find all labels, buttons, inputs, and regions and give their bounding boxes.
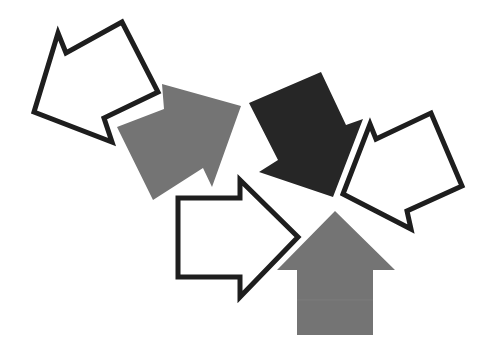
outlined-arrow-down-left-icon bbox=[343, 113, 462, 229]
arrows-illustration: Arrows converging toward a center point bbox=[0, 0, 490, 360]
arrows-graphic bbox=[0, 0, 490, 360]
gray-arrow-up-icon bbox=[277, 211, 395, 335]
outlined-arrow-right-icon bbox=[178, 180, 298, 297]
dark-arrow-down-right-icon bbox=[249, 72, 363, 197]
